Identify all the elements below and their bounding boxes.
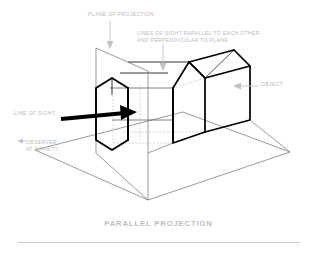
projection-plane <box>96 48 148 200</box>
label-observer-at-infinity: OBSERVER AT INFINITY <box>26 139 59 152</box>
object-solid <box>173 50 250 143</box>
label-plane-of-projection: PLANE OF PROJECTION <box>88 11 154 18</box>
leader-object <box>233 83 258 90</box>
label-lines-of-sight: LINES OF SIGHT PARALLEL TO EACH OTHER AN… <box>137 30 260 43</box>
leader-plane-of-projection <box>107 21 114 49</box>
label-line-of-sight: LINE OF SIGHT <box>14 110 55 117</box>
ground-tie-lines <box>148 120 290 153</box>
line-of-sight-arrow <box>61 105 137 120</box>
leader-lines-of-sight <box>160 44 167 71</box>
ground-plane <box>35 112 290 200</box>
leader-observer <box>17 139 26 144</box>
figure-canvas: PLANE OF PROJECTION LINES OF SIGHT PARAL… <box>0 0 317 255</box>
construction-lines <box>113 66 250 143</box>
figure-title: PARALLEL PROJECTION <box>0 219 317 228</box>
bottom-divider <box>18 242 300 243</box>
label-object: OBJECT <box>261 81 283 88</box>
